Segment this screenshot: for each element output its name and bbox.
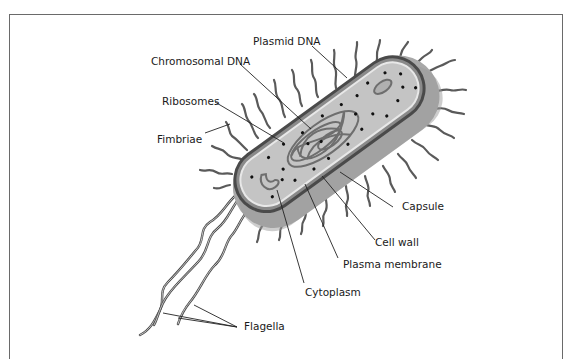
label-capsule: Capsule	[402, 200, 444, 212]
label-flagella: Flagella	[244, 320, 285, 332]
label-ribosomes: Ribosomes	[162, 95, 219, 107]
flagella-group	[140, 195, 248, 335]
label-plasma-membrane: Plasma membrane	[343, 258, 442, 270]
label-fimbriae: Fimbriae	[157, 133, 202, 145]
label-cytoplasm: Cytoplasm	[305, 286, 361, 298]
label-plasmid-dna: Plasmid DNA	[253, 35, 321, 47]
label-cell-wall: Cell wall	[375, 236, 419, 248]
label-chromosomal-dna: Chromosomal DNA	[151, 55, 251, 67]
